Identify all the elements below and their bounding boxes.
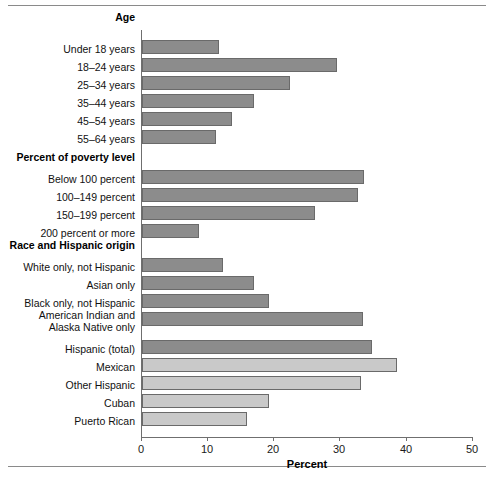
bar-under-18-years bbox=[142, 40, 219, 54]
x-tick-20 bbox=[273, 437, 274, 441]
group-header-poverty: Percent of poverty level bbox=[17, 152, 135, 163]
bar-100-149-percent bbox=[142, 188, 358, 202]
bar-below-100-percent bbox=[142, 170, 364, 184]
bar-18-24-years bbox=[142, 58, 337, 72]
x-tick-label-40: 40 bbox=[400, 443, 412, 455]
bar-25-34-years bbox=[142, 76, 290, 90]
x-tick-10 bbox=[207, 437, 208, 441]
row-label-25-34-years: 25–34 years bbox=[77, 80, 135, 91]
row-label-150-199-percent: 150–199 percent bbox=[56, 210, 135, 221]
row-label-white-only-not-hispanic: White only, not Hispanic bbox=[23, 262, 135, 273]
row-label-black-only-not-hispanic: Black only, not Hispanic bbox=[24, 298, 135, 309]
row-label-45-54-years: 45–54 years bbox=[77, 116, 135, 127]
row-label-200-percent-or-more: 200 percent or more bbox=[40, 228, 135, 239]
plot-area: 0 10 20 30 40 50 Percent Age Under 18 ye… bbox=[0, 0, 494, 483]
x-tick-label-30: 30 bbox=[333, 443, 345, 455]
row-label-35-44-years: 35–44 years bbox=[77, 98, 135, 109]
bar-35-44-years bbox=[142, 94, 254, 108]
row-label-18-24-years: 18–24 years bbox=[77, 62, 135, 73]
bar-white-only-not-hispanic bbox=[142, 258, 223, 272]
x-tick-0 bbox=[141, 437, 142, 441]
row-label-100-149-percent: 100–149 percent bbox=[56, 192, 135, 203]
bar-55-64-years bbox=[142, 130, 216, 144]
value-axis-line bbox=[141, 437, 473, 438]
row-label-cuban: Cuban bbox=[104, 398, 135, 409]
x-tick-label-50: 50 bbox=[466, 443, 478, 455]
x-axis-title: Percent bbox=[287, 458, 327, 470]
bar-hispanic-total bbox=[142, 340, 372, 354]
bar-150-199-percent bbox=[142, 206, 315, 220]
row-label-puerto-rican: Puerto Rican bbox=[74, 416, 135, 427]
x-tick-label-10: 10 bbox=[201, 443, 213, 455]
row-label-american-indian-alaska-native-only: American Indian and Alaska Native only bbox=[39, 310, 135, 333]
bar-200-percent-or-more bbox=[142, 224, 199, 238]
row-label-asian-only: Asian only bbox=[87, 280, 135, 291]
row-label-mexican: Mexican bbox=[96, 362, 135, 373]
row-label-hispanic-total: Hispanic (total) bbox=[65, 344, 135, 355]
bar-45-54-years bbox=[142, 112, 232, 126]
row-label-below-100-percent: Below 100 percent bbox=[48, 174, 135, 185]
bar-american-indian-alaska-native-only bbox=[142, 312, 363, 326]
x-tick-30 bbox=[339, 437, 340, 441]
row-label-other-hispanic: Other Hispanic bbox=[66, 380, 135, 391]
bar-asian-only bbox=[142, 276, 254, 290]
group-header-age: Age bbox=[115, 12, 135, 23]
bar-black-only-not-hispanic bbox=[142, 294, 269, 308]
x-tick-label-20: 20 bbox=[267, 443, 279, 455]
chart-figure: 0 10 20 30 40 50 Percent Age Under 18 ye… bbox=[0, 0, 494, 483]
group-header-race: Race and Hispanic origin bbox=[10, 240, 135, 251]
bar-puerto-rican bbox=[142, 412, 247, 426]
bar-mexican bbox=[142, 358, 397, 372]
bar-other-hispanic bbox=[142, 376, 361, 390]
row-label-55-64-years: 55–64 years bbox=[77, 134, 135, 145]
row-label-under-18-years: Under 18 years bbox=[63, 44, 135, 55]
bar-cuban bbox=[142, 394, 269, 408]
x-tick-50 bbox=[472, 437, 473, 441]
x-tick-label-0: 0 bbox=[138, 443, 144, 455]
x-tick-40 bbox=[406, 437, 407, 441]
